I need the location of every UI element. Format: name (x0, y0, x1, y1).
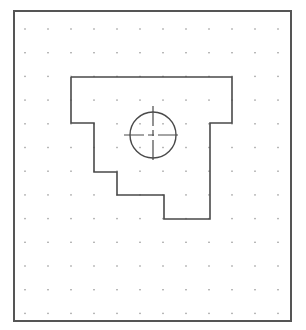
drawing-canvas (0, 0, 306, 330)
grid-dot (277, 265, 278, 266)
grid-dot (162, 99, 163, 100)
grid-dot (116, 218, 117, 219)
grid-dot (93, 52, 94, 53)
grid-dot (139, 218, 140, 219)
grid-dot (185, 289, 186, 290)
grid-dot (24, 194, 25, 195)
grid-dot (254, 313, 255, 314)
grid-dot (231, 171, 232, 172)
grid-dot (139, 289, 140, 290)
grid-dot (162, 171, 163, 172)
grid-dot (254, 242, 255, 243)
grid-dot (93, 242, 94, 243)
grid-dot (231, 289, 232, 290)
grid-dot (116, 265, 117, 266)
drawing-background (0, 0, 306, 330)
grid-dot (185, 52, 186, 53)
grid-dot (185, 313, 186, 314)
grid-dot (24, 52, 25, 53)
grid-dot (70, 194, 71, 195)
grid-dot (93, 194, 94, 195)
grid-dot (70, 28, 71, 29)
grid-dot (162, 242, 163, 243)
grid-dot (254, 171, 255, 172)
grid-dot (116, 242, 117, 243)
grid-dot (277, 99, 278, 100)
grid-dot (231, 52, 232, 53)
grid-dot (254, 28, 255, 29)
grid-dot (277, 147, 278, 148)
grid-dot (208, 242, 209, 243)
grid-dot (47, 99, 48, 100)
grid-dot (24, 242, 25, 243)
grid-dot (47, 123, 48, 124)
grid-dot (47, 242, 48, 243)
grid-dot (254, 123, 255, 124)
grid-dot (185, 147, 186, 148)
grid-dot (208, 99, 209, 100)
grid-dot (47, 76, 48, 77)
grid-dot (47, 171, 48, 172)
grid-dot (93, 289, 94, 290)
grid-dot (139, 99, 140, 100)
grid-dot (47, 313, 48, 314)
grid-dot (139, 171, 140, 172)
grid-dot (47, 194, 48, 195)
grid-dot (139, 28, 140, 29)
grid-dot (277, 52, 278, 53)
grid-dot (47, 28, 48, 29)
grid-dot (24, 28, 25, 29)
cad-drawing (0, 0, 306, 330)
grid-dot (24, 76, 25, 77)
grid-dot (185, 265, 186, 266)
grid-dot (277, 194, 278, 195)
grid-dot (231, 265, 232, 266)
grid-dot (185, 123, 186, 124)
grid-dot (208, 52, 209, 53)
grid-dot (24, 171, 25, 172)
grid-dot (70, 171, 71, 172)
grid-dot (47, 147, 48, 148)
grid-dot (70, 52, 71, 53)
grid-dot (277, 313, 278, 314)
grid-dot (162, 123, 163, 124)
grid-dot (185, 242, 186, 243)
grid-dot (24, 289, 25, 290)
grid-dot (231, 313, 232, 314)
grid-dot (254, 194, 255, 195)
grid-dot (231, 242, 232, 243)
grid-dot (70, 289, 71, 290)
grid-dot (93, 28, 94, 29)
grid-dot (208, 265, 209, 266)
grid-dot (24, 147, 25, 148)
grid-dot (162, 28, 163, 29)
grid-dot (277, 28, 278, 29)
grid-dot (254, 76, 255, 77)
grid-dot (93, 313, 94, 314)
grid-dot (277, 289, 278, 290)
grid-dot (277, 76, 278, 77)
grid-dot (277, 171, 278, 172)
grid-dot (116, 289, 117, 290)
grid-dot (231, 28, 232, 29)
grid-dot (139, 147, 140, 148)
grid-dot (24, 123, 25, 124)
grid-dot (185, 171, 186, 172)
grid-dot (139, 52, 140, 53)
grid-dot (70, 147, 71, 148)
grid-dot (116, 28, 117, 29)
grid-dot (24, 265, 25, 266)
grid-dot (47, 52, 48, 53)
grid-dot (162, 52, 163, 53)
grid-dot (231, 218, 232, 219)
grid-dot (254, 289, 255, 290)
grid-dot (185, 28, 186, 29)
grid-dot (139, 242, 140, 243)
grid-dot (208, 28, 209, 29)
grid-dot (162, 147, 163, 148)
grid-dot (208, 289, 209, 290)
grid-dot (116, 99, 117, 100)
grid-dot (185, 194, 186, 195)
grid-dot (277, 218, 278, 219)
grid-dot (47, 218, 48, 219)
